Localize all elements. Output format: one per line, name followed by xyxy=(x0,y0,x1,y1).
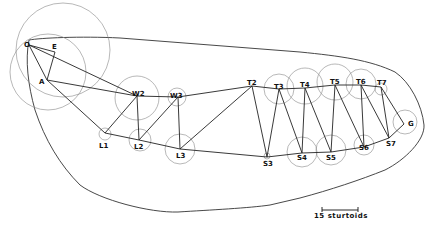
node-label-g: G xyxy=(408,120,414,128)
node-label-s3: S3 xyxy=(263,160,273,168)
network-edges xyxy=(29,45,404,157)
edge-t6-s6 xyxy=(361,85,364,147)
node-label-t4: T4 xyxy=(300,81,310,89)
edge-a-w2 xyxy=(47,80,137,96)
node-label-t2: T2 xyxy=(247,79,257,87)
scale-bar: 15 sturtoids xyxy=(314,207,368,220)
node-label-w3: W3 xyxy=(170,92,183,100)
edge-t7-g xyxy=(381,87,404,124)
edge-l2-l3 xyxy=(139,140,180,149)
edge-a-l1 xyxy=(47,80,105,133)
edge-t5-s5 xyxy=(331,85,335,152)
edge-o-w2 xyxy=(29,45,137,96)
scale-bar-label: 15 sturtoids xyxy=(314,212,368,220)
edge-s4-s5 xyxy=(302,152,331,153)
node-label-l1: L1 xyxy=(99,142,108,150)
outer-boundary xyxy=(27,37,424,212)
edge-t4-s4 xyxy=(302,88,305,153)
node-label-s5: S5 xyxy=(326,154,336,162)
node-label-l3: L3 xyxy=(176,152,185,160)
node-label-t5: T5 xyxy=(330,78,340,86)
edge-t3-s3 xyxy=(267,89,279,157)
node-label-l2: L2 xyxy=(134,143,143,151)
node-labels: OEAW2W3L1L2L3T2T3T4T5T6T7S3S4S5S6S7G xyxy=(24,41,414,168)
node-label-s6: S6 xyxy=(359,144,369,152)
edge-l1-l2 xyxy=(105,133,139,140)
sturtoid-network-diagram: OEAW2W3L1L2L3T2T3T4T5T6T7S3S4S5S6S7G 15 … xyxy=(0,0,431,233)
node-label-s4: S4 xyxy=(297,154,307,162)
edge-w3-l3 xyxy=(178,97,180,149)
node-label-t3: T3 xyxy=(274,83,284,91)
edge-e-a xyxy=(47,52,55,80)
node-label-t7: T7 xyxy=(377,79,387,87)
edge-o-a xyxy=(29,45,47,80)
node-label-e: E xyxy=(52,43,57,51)
edge-t2-s3 xyxy=(252,86,267,157)
node-label-s7: S7 xyxy=(386,140,396,148)
node-label-w2: W2 xyxy=(132,90,145,98)
node-label-o: O xyxy=(24,41,30,49)
edge-s7-g xyxy=(389,124,404,138)
node-label-t6: T6 xyxy=(356,78,366,86)
edge-w2-l2 xyxy=(137,96,139,140)
node-label-a: A xyxy=(39,78,45,86)
edge-w2-l1 xyxy=(105,96,137,133)
